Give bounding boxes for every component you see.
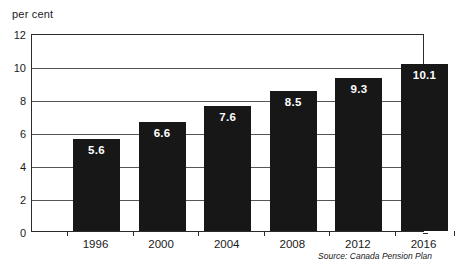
x-axis-category-label: 2008	[259, 238, 326, 250]
bar: 9.3	[335, 78, 382, 231]
y-axis-unit-label: per cent	[12, 8, 53, 20]
y-axis-tick-label: 8	[20, 95, 26, 107]
x-axis-category-label: 2004	[193, 238, 260, 250]
y-axis-tick-label: 0	[20, 227, 26, 239]
y-axis-tick-mark	[423, 233, 428, 234]
bar-value-label: 9.3	[335, 83, 382, 95]
x-axis-tick-mark	[67, 231, 68, 236]
bar: 6.6	[139, 122, 186, 231]
x-axis-category-label: 2012	[324, 238, 391, 250]
x-axis-tick-mark	[198, 231, 199, 236]
bar-value-label: 10.1	[401, 69, 448, 81]
bar-value-label: 5.6	[73, 144, 120, 156]
y-axis-tick-label: 2	[20, 194, 26, 206]
bar: 7.6	[204, 106, 251, 231]
x-axis-category-label: 2000	[128, 238, 195, 250]
plot-area: 0246810125.66.67.68.59.310.1	[31, 34, 424, 232]
x-axis-tick-mark	[133, 231, 134, 236]
bar: 10.1	[401, 64, 448, 231]
bar-value-label: 8.5	[270, 96, 317, 108]
x-axis-tick-mark	[454, 231, 455, 236]
x-axis-tick-mark	[329, 231, 330, 236]
y-axis-tick-label: 12	[14, 29, 26, 41]
y-axis-tick-label: 10	[14, 62, 26, 74]
source-note: Source: Canada Pension Plan	[318, 251, 432, 261]
gridline	[32, 68, 423, 69]
x-axis-tick-mark	[395, 231, 396, 236]
bar: 5.6	[73, 139, 120, 231]
bar: 8.5	[270, 91, 317, 231]
y-axis-tick-label: 4	[20, 161, 26, 173]
x-axis-category-label: 2016	[390, 238, 457, 250]
y-axis-tick-label: 6	[20, 128, 26, 140]
bar-value-label: 7.6	[204, 111, 251, 123]
x-axis-tick-mark	[264, 231, 265, 236]
bar-value-label: 6.6	[139, 127, 186, 139]
x-axis-category-label: 1996	[62, 238, 129, 250]
